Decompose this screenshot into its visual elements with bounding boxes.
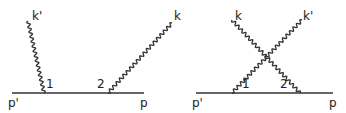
label-kprime-left: k' — [32, 10, 42, 22]
photon-kprime-left — [27, 21, 46, 93]
label-pprime-left: p' — [8, 97, 19, 109]
label-k-left: k — [174, 10, 181, 22]
label-kprime-right: k' — [303, 10, 313, 22]
label-vertex1-left: 1 — [46, 78, 54, 90]
label-pprime-right: p' — [192, 97, 203, 109]
photon-k-left — [108, 23, 172, 94]
feynman-diagrams — [0, 0, 346, 113]
label-vertex2-left: 2 — [97, 78, 105, 90]
label-k-right: k — [235, 10, 242, 22]
label-vertex2-right: 2 — [280, 78, 288, 90]
label-vertex1-right: 1 — [242, 78, 250, 90]
label-p-right: p — [329, 97, 337, 109]
label-p-left: p — [140, 97, 148, 109]
